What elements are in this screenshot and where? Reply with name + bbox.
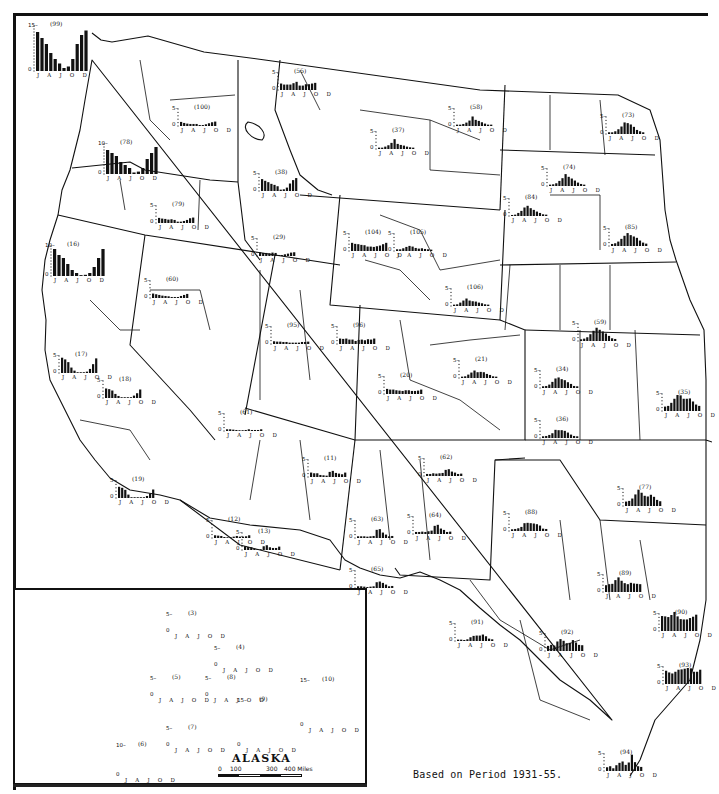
- y-tick-zero: 0: [150, 218, 154, 224]
- division-id-label: (90): [675, 608, 687, 615]
- y-tick-max: 5–: [448, 105, 454, 111]
- y-tick-max: 15–: [28, 22, 38, 28]
- division-id-label: (13): [258, 527, 270, 534]
- month-axis-labels: J A J O D: [274, 345, 327, 351]
- y-tick-max: 5–: [534, 367, 540, 373]
- y-tick-max: 5–: [388, 230, 394, 236]
- month-axis-labels: J A J O D: [119, 499, 172, 505]
- y-tick-zero: 0: [453, 373, 457, 379]
- month-axis-labels: J A J O D: [606, 593, 659, 599]
- division-id-label: (6): [138, 740, 147, 747]
- month-axis-labels: J A J O D: [550, 187, 603, 193]
- y-tick-zero: 0: [449, 636, 453, 642]
- y-tick-max: 5–: [166, 611, 172, 617]
- y-tick-zero: 0: [272, 85, 276, 91]
- month-axis-labels: J A J O D: [609, 135, 662, 141]
- y-tick-zero: 0: [448, 121, 452, 127]
- division-id-label: (88): [525, 508, 537, 515]
- month-axis-labels: J A J O D: [175, 633, 228, 639]
- alaska-inset: [13, 588, 367, 785]
- y-tick-max: 5–: [541, 165, 547, 171]
- division-id-label: (12): [228, 515, 240, 522]
- month-axis-labels: J A J O D: [281, 91, 334, 97]
- month-axis-labels: J A J O D: [159, 224, 212, 230]
- division-id-label: (20): [400, 371, 412, 378]
- month-axis-labels: J A J O D: [387, 395, 440, 401]
- y-tick-max: 5–: [302, 456, 308, 462]
- scale-bar-graphic: [218, 774, 302, 777]
- y-tick-max: 5–: [343, 230, 349, 236]
- y-tick-zero: 0: [617, 501, 621, 507]
- y-tick-max: 5–: [150, 675, 156, 681]
- division-id-label: (10): [322, 675, 334, 682]
- y-tick-zero: 0: [572, 336, 576, 342]
- y-tick-max: 5–: [166, 725, 172, 731]
- division-id-label: (35): [678, 388, 690, 395]
- y-tick-max: 5–: [600, 113, 606, 119]
- division-id-label: (11): [324, 454, 336, 461]
- division-id-label: (59): [594, 318, 606, 325]
- division-id-label: (7): [188, 723, 197, 730]
- month-axis-labels: J A J O D: [62, 374, 115, 380]
- alaska-inset-shadow: [13, 784, 367, 787]
- y-tick-max: 15–: [300, 677, 310, 683]
- y-tick-max: 5–: [144, 277, 150, 283]
- division-id-label: (21): [475, 355, 487, 362]
- month-axis-labels: J A J O D: [245, 551, 298, 557]
- y-tick-zero: 0: [218, 426, 222, 432]
- division-id-label: (92): [561, 628, 573, 635]
- scale-label-100: 100: [230, 765, 241, 772]
- division-id-label: (19): [132, 475, 144, 482]
- y-tick-zero: 0: [597, 587, 601, 593]
- month-axis-labels: J A J O D: [125, 777, 178, 783]
- month-axis-labels: J A J O D: [311, 478, 364, 484]
- month-axis-labels: J A J O D: [107, 175, 160, 181]
- period-caption: Based on Period 1931-55.: [413, 769, 562, 780]
- y-tick-max: 15–: [237, 697, 247, 703]
- y-tick-zero: 0: [534, 433, 538, 439]
- y-tick-max: 5–: [418, 455, 424, 461]
- y-tick-zero: 0: [214, 661, 218, 667]
- y-tick-zero: 0: [503, 211, 507, 217]
- scale-label-0: 0: [218, 765, 222, 772]
- division-id-label: (61): [240, 408, 252, 415]
- y-tick-zero: 0: [98, 169, 102, 175]
- division-id-label: (63): [371, 515, 383, 522]
- y-tick-zero: 0: [110, 493, 114, 499]
- y-tick-max: 10–: [98, 140, 108, 146]
- month-axis-labels: J A J O D: [246, 747, 299, 753]
- division-id-label: (104): [365, 228, 381, 235]
- y-tick-zero: 0: [656, 406, 660, 412]
- y-tick-max: 5–: [445, 285, 451, 291]
- y-tick-zero: 0: [378, 389, 382, 395]
- y-tick-max: 5–: [53, 352, 59, 358]
- y-tick-zero: 0: [237, 741, 241, 747]
- y-tick-max: 5–: [617, 485, 623, 491]
- y-tick-zero: 0: [503, 526, 507, 532]
- scale-label-300: 300: [266, 765, 277, 772]
- y-tick-max: 5–: [598, 750, 604, 756]
- y-tick-zero: 0: [206, 533, 210, 539]
- division-id-label: (64): [429, 511, 441, 518]
- y-tick-zero: 0: [45, 271, 49, 277]
- y-tick-max: 5–: [657, 663, 663, 669]
- month-axis-labels: J A J O D: [215, 539, 268, 545]
- y-tick-max: 5–: [205, 675, 211, 681]
- division-id-label: (60): [166, 275, 178, 282]
- month-axis-labels: J A J O D: [262, 192, 315, 198]
- y-tick-zero: 0: [370, 144, 374, 150]
- y-tick-zero: 0: [97, 393, 101, 399]
- y-tick-max: 5–: [110, 477, 116, 483]
- y-tick-max: 5–: [272, 69, 278, 75]
- y-tick-max: 5–: [503, 195, 509, 201]
- y-tick-zero: 0: [349, 533, 353, 539]
- division-id-label: (74): [563, 163, 575, 170]
- y-tick-zero: 0: [144, 293, 148, 299]
- y-tick-max: 5–: [349, 517, 355, 523]
- y-tick-zero: 0: [28, 66, 32, 72]
- y-tick-max: 5–: [453, 357, 459, 363]
- month-axis-labels: J A J O D: [548, 652, 601, 658]
- alaska-title: ALASKA: [232, 752, 291, 765]
- division-id-label: (106): [467, 283, 483, 290]
- month-axis-labels: J A J O D: [612, 247, 665, 253]
